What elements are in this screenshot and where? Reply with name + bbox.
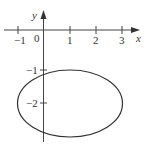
- y-tick-label-neg2: −2: [26, 97, 38, 109]
- ellipse-figure: −1 0 1 2 3 x y −1 −2: [0, 0, 148, 146]
- y-axis-label: y: [31, 9, 37, 21]
- x-tick-label-2: 2: [93, 34, 99, 46]
- y-tick-label-neg1: −1: [26, 64, 38, 76]
- x-tick-label-3: 3: [119, 34, 125, 46]
- x-tick-label-neg1: −1: [14, 34, 26, 46]
- coordinate-plot: −1 0 1 2 3 x y −1 −2: [0, 0, 148, 146]
- x-tick-label-1: 1: [67, 34, 73, 46]
- y-axis-arrow-icon: [41, 10, 47, 19]
- x-axis-label: x: [135, 32, 141, 44]
- origin-label: 0: [34, 32, 40, 44]
